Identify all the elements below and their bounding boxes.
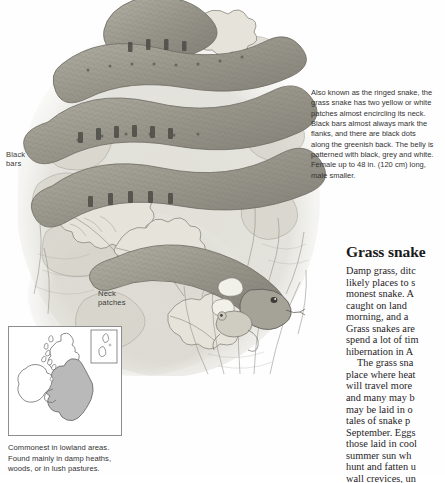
article-line: may be laid in o	[346, 404, 445, 416]
frog	[213, 311, 258, 351]
article-line: monest snake. A	[346, 288, 445, 300]
article-line: those laid in cool	[346, 438, 445, 450]
map-caption-line: Commonest in lowland areas.	[8, 443, 124, 454]
grass-snake-illustration	[18, 0, 328, 376]
map-caption-line: woods, or in lush pastures.	[8, 464, 124, 475]
article-title: Grass snake	[346, 243, 445, 260]
illustration-artwork	[18, 0, 328, 376]
oak-leaf	[58, 176, 154, 248]
caption-line: grass snake has two yellow or white	[311, 98, 445, 108]
oak-leaf	[168, 293, 249, 349]
map-region-ireland	[18, 365, 52, 403]
article-line: likely places to s	[346, 277, 445, 289]
article-line: place where heat	[346, 369, 445, 381]
distribution-map-frame	[8, 326, 122, 436]
article-line: Damp grass, ditc	[346, 265, 445, 277]
article-line: hibernation in A	[346, 346, 445, 358]
snake-eye	[271, 297, 278, 303]
caption-line: along the greenish back. The belly is	[311, 140, 445, 150]
article-line: September. Eggs	[346, 427, 445, 439]
caption-line: patches almost encircling its neck.	[311, 109, 445, 119]
snake-head	[240, 289, 305, 329]
background-leaves	[32, 36, 305, 348]
british-isles-map	[9, 327, 121, 435]
map-shetland-inset	[91, 330, 117, 363]
article-line: summer sun wh	[346, 450, 445, 462]
caption-line: patterned with black, grey and white.	[311, 150, 445, 160]
article-line: wall crevices, un	[346, 473, 445, 483]
article-line: morning, and a	[346, 311, 445, 323]
article-line: and many may b	[346, 392, 445, 404]
snake-tongue	[286, 310, 300, 313]
article-line: The grass sna	[346, 357, 445, 369]
caption-line: Also known as the ringed snake, the	[311, 88, 445, 98]
map-isle-of-man	[50, 377, 53, 382]
caption-line: Black bars almost always mark the	[311, 119, 445, 129]
neck-patches-marking	[212, 278, 243, 316]
snake-body	[24, 0, 326, 330]
callout-label-neck-patches: Neck patches	[98, 289, 158, 308]
article-line: Grass snakes are	[346, 323, 445, 335]
callout-label-black-bars: Black bars	[6, 150, 60, 169]
article-line: tales of snake p	[346, 415, 445, 427]
distribution-map-block: Commonest in lowland areas. Found mainly…	[8, 326, 124, 475]
distribution-map-caption: Commonest in lowland areas. Found mainly…	[8, 443, 124, 475]
article-line: caught on land	[346, 300, 445, 312]
back-dots-marking	[77, 56, 244, 142]
oak-leaf	[114, 218, 205, 275]
species-description-caption: Also known as the ringed snake, the gras…	[311, 88, 445, 181]
caption-line: male smaller.	[311, 171, 445, 181]
leaf-litter-wash	[18, 21, 320, 376]
article-line: will travel more	[346, 380, 445, 392]
black-bars-marking	[78, 39, 187, 207]
map-caption-line: Found mainly in damp heaths,	[8, 454, 124, 465]
caption-line: flanks, and there are black dots	[311, 129, 445, 139]
caption-line: Female up to 48 in. (120 cm) long,	[311, 160, 445, 170]
article-line: hunt and fatten u	[346, 461, 445, 473]
oak-leaf	[192, 10, 256, 56]
article-body: Damp grass, ditc likely places to s mone…	[346, 265, 445, 483]
article-line: spend a lot of tim	[346, 334, 445, 346]
article-column: Grass snake Damp grass, ditc likely plac…	[346, 243, 445, 483]
